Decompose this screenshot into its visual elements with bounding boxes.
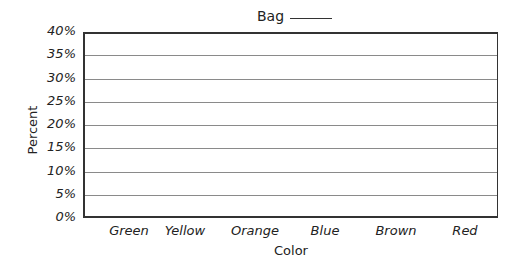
y-tick-label: 20% <box>16 117 76 131</box>
y-tick-label: 0% <box>16 210 76 224</box>
y-tick-label: 30% <box>16 71 76 85</box>
bag-number-blank <box>290 18 332 19</box>
y-tick-label: 10% <box>16 164 76 178</box>
x-tick-label: Red <box>425 223 505 238</box>
y-tick-label: 35% <box>16 47 76 61</box>
plot-area <box>83 32 498 218</box>
y-tick-label: 5% <box>16 187 76 201</box>
x-tick-label: Blue <box>285 223 365 238</box>
y-tick-label: 15% <box>16 140 76 154</box>
x-axis-label: Color <box>274 243 308 258</box>
y-tick-label: 25% <box>16 94 76 108</box>
x-tick-label: Yellow <box>145 223 225 238</box>
chart-title-text: Bag <box>257 8 284 24</box>
chart-title: Bag <box>257 8 332 24</box>
x-tick-label: Orange <box>215 223 295 238</box>
x-tick-label: Brown <box>356 223 436 238</box>
y-tick-label: 40% <box>16 24 76 38</box>
